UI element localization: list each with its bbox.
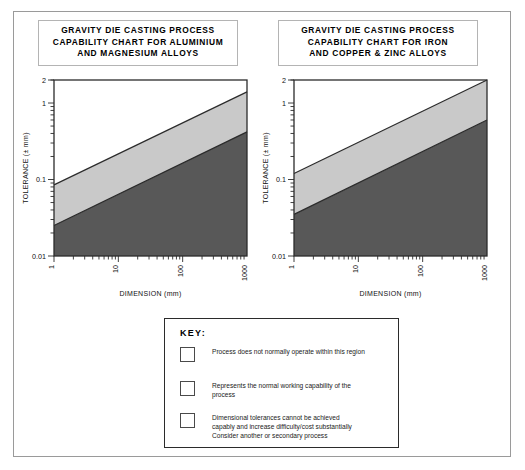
y-axis-tick-label: 0.01 [272, 251, 286, 260]
key-entry-line: Represents the normal working capability… [212, 381, 351, 390]
chart-title-line: GRAVITY DIE CASTING PROCESS [41, 25, 235, 37]
y-axis-title: TOLERANCE (± mm) [262, 132, 270, 204]
x-axis-tick-label: 1000 [480, 265, 489, 281]
y-axis-tick-label: 2 [42, 75, 46, 84]
key-entry-line: Consider another or secondary process [212, 431, 352, 440]
key-swatch-light-gray [180, 381, 195, 396]
chart-svg-aluminium-magnesium: 0.010.1121101001000DIMENSION (mm)TOLERAN… [18, 72, 258, 300]
chart-title-aluminium-magnesium: GRAVITY DIE CASTING PROCESS CAPABILITY C… [38, 20, 238, 66]
key-entry-line: process [212, 390, 351, 399]
plot-area-iron-copper-zinc: 0.010.1121101001000DIMENSION (mm)TOLERAN… [258, 72, 498, 300]
plot-area-aluminium-magnesium: 0.010.1121101001000DIMENSION (mm)TOLERAN… [18, 72, 258, 300]
chart-title-line: CAPABILITY CHART FOR ALUMINIUM [41, 37, 235, 49]
x-axis-tick-label: 10 [111, 265, 120, 273]
key-swatch-dark-gray [180, 413, 195, 428]
x-axis-title: DIMENSION (mm) [119, 290, 181, 298]
key-swatch-white [180, 347, 195, 362]
y-axis-tick-label: 1 [42, 98, 46, 107]
chart-panel-aluminium-magnesium: GRAVITY DIE CASTING PROCESS CAPABILITY C… [18, 20, 258, 308]
x-axis-tick-label: 100 [176, 265, 185, 277]
figure-page: GRAVITY DIE CASTING PROCESS CAPABILITY C… [0, 0, 525, 470]
chart-svg-iron-copper-zinc: 0.010.1121101001000DIMENSION (mm)TOLERAN… [258, 72, 498, 300]
key-entry-not-normally-operated: Process does not normally operate within… [180, 347, 365, 362]
x-axis-tick-label: 1 [47, 265, 56, 269]
x-axis-tick-label: 1000 [240, 265, 249, 281]
key-entry-text: Process does not normally operate within… [212, 347, 365, 356]
x-axis-tick-label: 1 [287, 265, 296, 269]
y-axis-tick-label: 2 [282, 75, 286, 84]
y-axis-tick-label: 0.1 [36, 175, 46, 184]
x-axis-tick-label: 10 [351, 265, 360, 273]
key-entry-text: Dimensional tolerances cannot be achieve… [212, 413, 352, 441]
key-entry-line: Dimensional tolerances cannot be achieve… [212, 413, 352, 422]
key-entry-line: capably and increase difficulty/cost sub… [212, 422, 352, 431]
key-entry-text: Represents the normal working capability… [212, 381, 351, 399]
chart-title-line: AND COPPER & ZINC ALLOYS [281, 48, 475, 60]
y-axis-title: TOLERANCE (± mm) [22, 132, 30, 204]
chart-panel-iron-copper-zinc: GRAVITY DIE CASTING PROCESS CAPABILITY C… [258, 20, 498, 308]
key-entry-normal-working-capability: Represents the normal working capability… [180, 381, 351, 399]
y-axis-tick-label: 0.01 [32, 251, 46, 260]
x-axis-tick-label: 100 [416, 265, 425, 277]
key-title: KEY: [180, 328, 206, 338]
chart-title-line: GRAVITY DIE CASTING PROCESS [281, 25, 475, 37]
key-entry-line: Process does not normally operate within… [212, 347, 365, 356]
key-legend-box: KEY: Process does not normally operate w… [164, 318, 399, 448]
key-entry-not-capably-achievable: Dimensional tolerances cannot be achieve… [180, 413, 352, 441]
x-axis-title: DIMENSION (mm) [359, 290, 421, 298]
chart-title-line: AND MAGNESIUM ALLOYS [41, 48, 235, 60]
chart-title-line: CAPABILITY CHART FOR IRON [281, 37, 475, 49]
y-axis-tick-label: 0.1 [276, 175, 286, 184]
y-axis-tick-label: 1 [282, 98, 286, 107]
chart-title-iron-copper-zinc: GRAVITY DIE CASTING PROCESS CAPABILITY C… [278, 20, 478, 66]
